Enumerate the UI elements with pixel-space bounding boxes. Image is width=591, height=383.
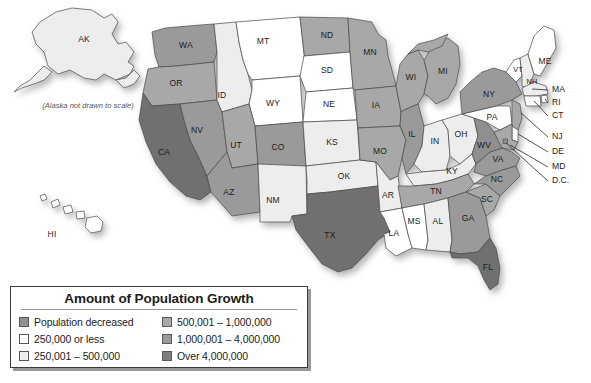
legend-item-250k-500k[interactable]: 250,001 – 500,000 (19, 348, 162, 363)
state-label-UT: UT (230, 140, 242, 150)
state-label-AZ: AZ (223, 187, 234, 197)
state-label-PA: PA (486, 112, 497, 122)
state-label-TX: TX (324, 230, 335, 240)
state-HI[interactable] (40, 194, 47, 201)
state-label-HI: HI (48, 229, 57, 239)
legend-item-250k-or-less[interactable]: 250,000 or less (19, 331, 162, 346)
state-label-IN: IN (431, 136, 440, 146)
legend-item-decreased[interactable]: Population decreased (19, 314, 162, 329)
legend-swatch-250k-or-less (19, 334, 29, 344)
hawaii-isl-3 (63, 205, 73, 214)
legend-label-1m-4m: 1,000,001 – 4,000,000 (177, 333, 280, 345)
state-label-WV: WV (477, 140, 491, 150)
alaska-inset-group (14, 8, 140, 92)
state-label-SD: SD (321, 65, 333, 75)
legend-title: Amount of Population Growth (21, 291, 297, 310)
state-NJ[interactable] (512, 100, 522, 130)
state-ME[interactable] (528, 26, 556, 76)
legend-column-left: Population decreased 250,000 or less 250… (19, 314, 162, 363)
hawaii-isl-2 (51, 199, 60, 208)
state-label-LA: LA (389, 228, 400, 238)
state-DC[interactable] (503, 139, 508, 144)
state-label-OR: OR (169, 78, 182, 88)
state-label-NC: NC (491, 174, 504, 184)
state-label-MT: MT (257, 36, 270, 46)
legend-swatch-over-4m (162, 351, 172, 361)
population-growth-map-figure: AK HI (Alaska not drawn to scale) WA OR … (0, 0, 591, 383)
state-label-WI: WI (406, 72, 417, 82)
state-label-MO: MO (373, 146, 387, 156)
state-label-AK: AK (78, 34, 90, 44)
state-label-ME: ME (538, 56, 551, 66)
callout-label-MA: MA (552, 84, 565, 94)
leader-line-DE (518, 134, 548, 152)
state-label-MS: MS (407, 216, 420, 226)
alaska-scale-note: (Alaska not drawn to scale) (42, 101, 134, 110)
legend-swatch-500k-1m (162, 317, 172, 327)
legend-swatch-250k-500k (19, 351, 29, 361)
callout-label-CT: CT (552, 110, 564, 120)
state-label-IL: IL (408, 129, 416, 139)
state-label-CO: CO (271, 142, 284, 152)
state-label-SC: SC (481, 194, 493, 204)
state-label-KS: KS (326, 137, 338, 147)
callout-label-RI: RI (552, 97, 561, 107)
state-label-AL: AL (433, 216, 444, 226)
callout-label-NJ: NJ (552, 131, 563, 141)
state-label-ID: ID (218, 90, 227, 100)
state-label-ND: ND (321, 30, 334, 40)
state-label-FL: FL (483, 262, 493, 272)
state-label-NM: NM (266, 195, 280, 205)
state-label-WY: WY (266, 98, 280, 108)
callout-label-DE: DE (552, 146, 564, 156)
alaska-aleutians (14, 66, 52, 92)
state-label-IA: IA (372, 100, 381, 110)
state-CT[interactable] (524, 96, 541, 106)
state-label-NY: NY (483, 89, 495, 99)
state-label-VA: VA (492, 154, 503, 164)
state-label-AR: AR (382, 190, 394, 200)
legend-label-250k-500k: 250,001 – 500,000 (34, 350, 120, 362)
legend-item-1m-4m[interactable]: 1,000,001 – 4,000,000 (162, 331, 299, 346)
state-label-CA: CA (158, 147, 170, 157)
state-label-OK: OK (338, 171, 351, 181)
legend-item-over-4m[interactable]: Over 4,000,000 (162, 348, 299, 363)
legend-swatch-decreased (19, 317, 29, 327)
legend-swatch-1m-4m (162, 334, 172, 344)
state-label-NV: NV (191, 125, 203, 135)
leader-line-NJ (521, 113, 548, 137)
state-label-VT: VT (513, 65, 523, 74)
state-label-NE: NE (323, 99, 335, 109)
legend-label-250k-or-less: 250,000 or less (34, 333, 104, 345)
legend-item-500k-1m[interactable]: 500,001 – 1,000,000 (162, 314, 299, 329)
map-legend: Amount of Population Growth Population d… (10, 286, 308, 368)
hawaii-isl-4 (76, 211, 85, 219)
state-label-MI: MI (438, 66, 448, 76)
callout-label-MD: MD (552, 161, 565, 171)
state-label-NH: NH (527, 77, 538, 86)
state-NM[interactable] (258, 164, 307, 222)
state-label-GA: GA (462, 213, 475, 223)
state-label-WA: WA (179, 40, 193, 50)
state-label-TN: TN (430, 186, 442, 196)
legend-label-over-4m: Over 4,000,000 (177, 350, 248, 362)
callout-label-DC: D.C. (552, 175, 569, 185)
legend-column-right: 500,001 – 1,000,000 1,000,001 – 4,000,00… (162, 314, 299, 363)
state-label-OH: OH (454, 129, 467, 139)
hawaii-inset-group (40, 194, 103, 233)
hawaii-isl-big (85, 216, 103, 233)
legend-label-500k-1m: 500,001 – 1,000,000 (177, 316, 271, 328)
state-label-MN: MN (363, 47, 377, 57)
legend-label-decreased: Population decreased (34, 316, 134, 328)
state-label-KY: KY (446, 166, 458, 176)
